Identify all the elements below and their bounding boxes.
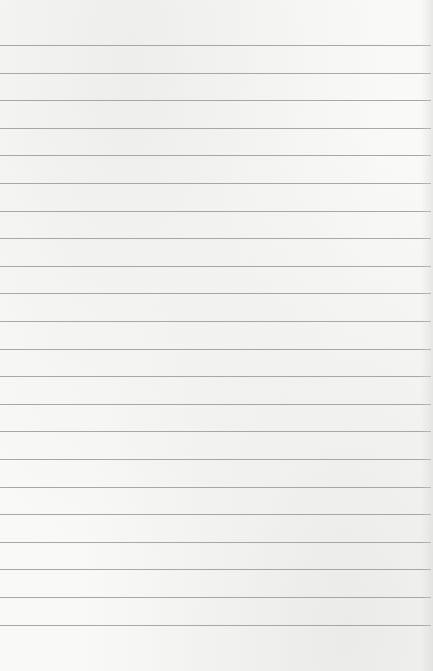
- ruled-line: [0, 293, 431, 294]
- ruled-line: [0, 183, 431, 184]
- ruled-line: [0, 542, 431, 543]
- ruled-line: [0, 128, 431, 129]
- ruled-line: [0, 459, 431, 460]
- lined-paper-sheet: [0, 0, 433, 671]
- ruled-line: [0, 100, 431, 101]
- paper-edge-shadow: [421, 0, 433, 671]
- ruled-line: [0, 597, 431, 598]
- ruled-line: [0, 211, 431, 212]
- ruled-line: [0, 321, 431, 322]
- ruled-line: [0, 45, 431, 46]
- ruled-line: [0, 487, 431, 488]
- ruled-line: [0, 404, 431, 405]
- ruled-line: [0, 625, 431, 626]
- ruled-line: [0, 266, 431, 267]
- ruled-line: [0, 349, 431, 350]
- ruled-line: [0, 155, 431, 156]
- ruled-line: [0, 514, 431, 515]
- ruled-line: [0, 569, 431, 570]
- ruled-line: [0, 238, 431, 239]
- ruled-line: [0, 431, 431, 432]
- ruled-line: [0, 376, 431, 377]
- ruled-line: [0, 73, 431, 74]
